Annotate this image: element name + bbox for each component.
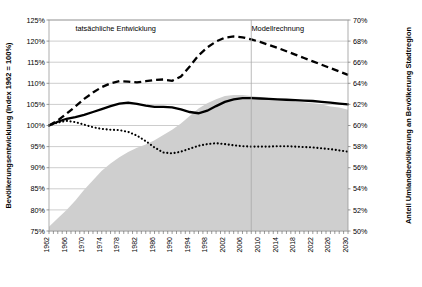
xtick-label-9: 1998 bbox=[201, 237, 208, 253]
ytick-label-left-8: 85% bbox=[31, 184, 46, 193]
xtick-label-6: 1986 bbox=[149, 237, 156, 253]
ytick-label-right-7: 56% bbox=[353, 163, 368, 172]
ytick-label-right-10: 50% bbox=[353, 227, 368, 236]
xtick-label-4: 1978 bbox=[113, 237, 120, 253]
xtick-label-2: 1970 bbox=[78, 237, 85, 253]
annotation-observed: tatsächliche Entwicklung bbox=[75, 24, 156, 33]
ytick-label-right-9: 52% bbox=[353, 206, 368, 215]
xtick-label-17: 2030 bbox=[342, 237, 349, 253]
xtick-label-0: 1962 bbox=[43, 237, 50, 253]
xtick-label-16: 2026 bbox=[324, 237, 331, 253]
ytick-label-left-6: 95% bbox=[31, 142, 46, 151]
xtick-label-11: 2006 bbox=[236, 237, 243, 253]
ytick-label-right-1: 68% bbox=[353, 37, 368, 46]
ytick-label-left-7: 90% bbox=[31, 163, 46, 172]
chart-figure: 125%120%115%110%105%100%95%90%85%80%75%7… bbox=[0, 0, 422, 287]
xtick-label-5: 1982 bbox=[131, 237, 138, 253]
ytick-label-left-9: 80% bbox=[31, 206, 46, 215]
ytick-label-right-8: 54% bbox=[353, 184, 368, 193]
ytick-label-right-3: 64% bbox=[353, 79, 368, 88]
y-axis-title-left: Bevölkerungsentwicklung (Index 1962 = 10… bbox=[4, 42, 13, 209]
ytick-label-right-6: 58% bbox=[353, 142, 368, 151]
ytick-label-left-10: 75% bbox=[31, 227, 46, 236]
ytick-label-right-4: 62% bbox=[353, 100, 368, 109]
y-axis-title-right: Anteil Umlandbevölkerung an Bevölkerung … bbox=[404, 27, 413, 225]
ytick-label-left-4: 105% bbox=[27, 100, 46, 109]
population-development-chart: 125%120%115%110%105%100%95%90%85%80%75%7… bbox=[0, 0, 422, 287]
xtick-label-15: 2022 bbox=[307, 237, 314, 253]
xtick-label-8: 1994 bbox=[184, 237, 191, 253]
ytick-label-right-0: 70% bbox=[353, 16, 368, 25]
ytick-label-left-2: 115% bbox=[27, 58, 45, 67]
ytick-label-left-5: 100% bbox=[27, 121, 46, 130]
ytick-label-left-3: 110% bbox=[27, 79, 45, 88]
xtick-label-10: 2002 bbox=[219, 237, 226, 253]
annotation-projection: Modellrechnung bbox=[251, 24, 304, 33]
xtick-label-12: 2010 bbox=[254, 237, 261, 253]
ytick-label-right-2: 66% bbox=[353, 58, 368, 67]
xtick-label-1: 1966 bbox=[61, 237, 68, 253]
xtick-label-7: 1990 bbox=[166, 237, 173, 253]
xtick-label-14: 2018 bbox=[289, 237, 296, 253]
ytick-label-left-0: 125% bbox=[27, 16, 46, 25]
xtick-label-13: 2014 bbox=[272, 237, 279, 253]
ytick-label-left-1: 120% bbox=[27, 37, 46, 46]
ytick-label-right-5: 60% bbox=[353, 121, 368, 130]
xtick-label-3: 1974 bbox=[96, 237, 103, 253]
